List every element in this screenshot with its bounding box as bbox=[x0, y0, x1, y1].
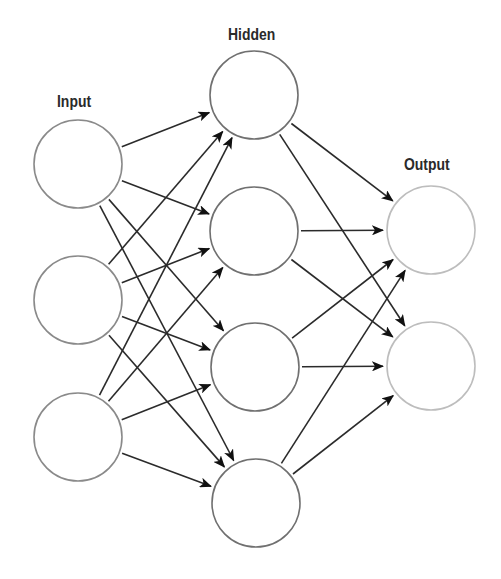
edge-i3-h4-arrow bbox=[122, 453, 211, 486]
edge-i3-h3-arrow bbox=[122, 385, 211, 420]
hidden-layer-label: Hidden bbox=[228, 25, 275, 45]
output-node-o1 bbox=[387, 186, 475, 274]
neuron-nodes bbox=[34, 51, 475, 547]
hidden-node-h4 bbox=[212, 459, 300, 547]
input-layer-label: Input bbox=[57, 92, 91, 112]
hidden-node-h2 bbox=[210, 187, 298, 275]
hidden-node-h1 bbox=[210, 51, 298, 139]
input-node-i2 bbox=[34, 256, 122, 344]
edge-i1-h1-arrow bbox=[122, 113, 210, 147]
output-layer-label: Output bbox=[404, 155, 450, 175]
output-node-o2 bbox=[387, 322, 475, 410]
edge-h1-o1-arrow bbox=[291, 124, 392, 201]
edge-h4-o2-arrow bbox=[293, 396, 393, 474]
neural-network-diagram bbox=[0, 0, 501, 579]
hidden-node-h3 bbox=[211, 323, 299, 411]
connection-edges bbox=[100, 113, 406, 487]
input-node-i1 bbox=[34, 120, 122, 208]
input-node-i3 bbox=[34, 393, 122, 481]
edge-i3-h2-arrow bbox=[109, 268, 223, 402]
edge-i2-h1-arrow bbox=[109, 131, 223, 264]
